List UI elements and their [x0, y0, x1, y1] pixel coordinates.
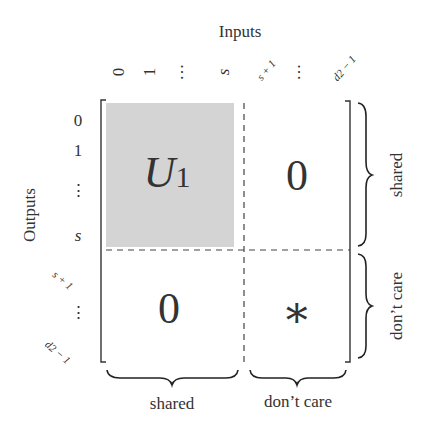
left-bracket [101, 100, 106, 362]
col-tick-1: 1 [140, 68, 160, 77]
block-u1-main: U [144, 148, 176, 197]
block-top-right-zero: 0 [286, 150, 308, 201]
col-tick-dots-1: ··· [173, 64, 193, 81]
block-u1-subscript: 1 [175, 160, 190, 193]
row-tick-s: s [75, 226, 82, 246]
right-brace-dont-care [358, 254, 372, 358]
row-tick-dots-1: ⋮ [70, 180, 87, 201]
right-label-shared: shared [387, 153, 407, 197]
col-tick-dots-2: ··· [290, 64, 310, 81]
row-tick-0: 0 [74, 111, 83, 131]
block-bottom-left-zero: 0 [158, 283, 180, 334]
right-bracket [345, 101, 350, 362]
bottom-brace-dont-care [250, 370, 346, 385]
col-tick-0: 0 [109, 68, 129, 77]
bottom-brace-shared [107, 370, 238, 385]
block-u1: U1 [144, 147, 191, 198]
matrix-lines [0, 0, 426, 435]
right-brace-shared [358, 103, 372, 246]
inputs-label: Inputs [219, 22, 262, 42]
bottom-label-shared: shared [150, 394, 194, 414]
col-tick-s: s [214, 69, 234, 76]
outputs-label: Outputs [20, 188, 40, 242]
bottom-label-dont-care: don’t care [264, 392, 332, 412]
block-bottom-right-star: ∗ [282, 286, 312, 338]
row-tick-1: 1 [74, 141, 83, 161]
right-label-dont-care: don’t care [387, 272, 407, 340]
row-tick-dots-2: ⋮ [70, 302, 87, 323]
